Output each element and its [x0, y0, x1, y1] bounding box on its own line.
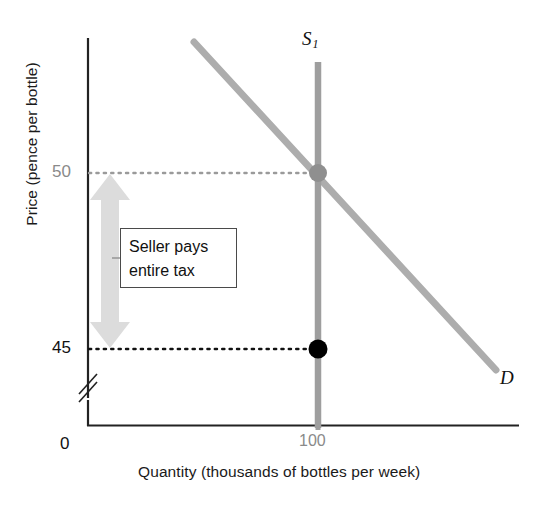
origin-label: 0 [60, 434, 69, 454]
seller-pays-callout-box: Seller pays entire tax [120, 228, 237, 288]
supply-curve-label: S1 [302, 28, 319, 52]
chart-plot-area [0, 0, 540, 509]
chart-figure: Seller pays entire tax Price (pence per … [0, 0, 540, 509]
y-axis-title: Price (pence per bottle) [23, 44, 41, 244]
demand-curve [194, 42, 496, 370]
supply-curve-label-subscript: 1 [313, 37, 319, 51]
supply-curve-label-letter: S [302, 28, 312, 49]
x-axis-title: Quantity (thousands of bottles per week) [138, 463, 420, 481]
equilibrium-point-before-tax [309, 164, 327, 182]
x-tick-label-100: 100 [299, 432, 326, 450]
equilibrium-point-after-tax [309, 340, 328, 359]
y-tick-label-50: 50 [52, 162, 71, 182]
y-tick-label-45: 45 [52, 338, 71, 358]
seller-pays-callout-text: Seller pays entire tax [129, 235, 208, 283]
demand-curve-label: D [500, 367, 514, 389]
